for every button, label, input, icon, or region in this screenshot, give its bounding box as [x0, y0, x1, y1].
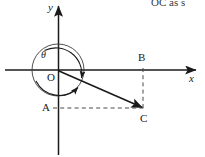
- x-axis-label: x: [189, 73, 194, 84]
- angle-theta-label: θ: [41, 50, 46, 60]
- vector-OC: [59, 71, 143, 108]
- figure-canvas: y x O θ A B C OC as s: [0, 0, 205, 157]
- origin-label: O: [47, 72, 55, 83]
- rotation-arc-arrow-lower: [36, 81, 78, 95]
- diagram-svg: [0, 0, 205, 157]
- point-label-b: B: [138, 52, 145, 63]
- point-label-c: C: [140, 113, 147, 124]
- y-axis-label: y: [48, 2, 53, 13]
- point-label-a: A: [42, 102, 50, 113]
- clipped-caption-text: OC as s: [151, 0, 185, 9]
